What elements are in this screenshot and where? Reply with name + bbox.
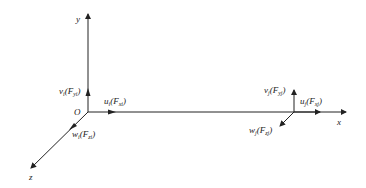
vj-label: vj(Fyj) xyxy=(264,85,286,96)
wj-vector xyxy=(280,112,294,126)
x-axis-label: x xyxy=(336,117,341,127)
wj-label: wj(Fzj) xyxy=(249,125,272,136)
vi-label: vi(Fyi) xyxy=(59,86,81,97)
wi-label: wi(Fzi) xyxy=(72,129,95,140)
uj-label: uj(Fxj) xyxy=(300,96,322,107)
z-axis-label: z xyxy=(28,172,33,182)
ui-label: ui(Fxi) xyxy=(104,96,126,107)
vi-arrow-icon xyxy=(86,88,91,96)
ui-arrow-icon xyxy=(108,110,116,115)
beam-element-diagram: y x z O vi(Fyi) ui(Fxi) wi(Fzi) vj(Fyj) … xyxy=(0,0,366,188)
z-axis xyxy=(31,112,88,168)
origin-label: O xyxy=(74,107,81,117)
y-axis-label: y xyxy=(75,14,80,24)
